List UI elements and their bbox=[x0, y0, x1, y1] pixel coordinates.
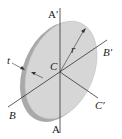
label-a: A bbox=[52, 124, 60, 135]
label-b: B bbox=[9, 110, 16, 121]
label-c: C bbox=[50, 61, 57, 72]
label-r: r bbox=[71, 44, 75, 55]
label-t: t bbox=[7, 55, 10, 66]
label-a-prime: A′ bbox=[48, 9, 58, 20]
diagram-graphic bbox=[0, 0, 122, 139]
label-b-prime: B′ bbox=[103, 47, 112, 58]
disk-diagram: A′ A B B′ C C′ r t bbox=[0, 0, 122, 139]
label-c-prime: C′ bbox=[95, 100, 105, 111]
